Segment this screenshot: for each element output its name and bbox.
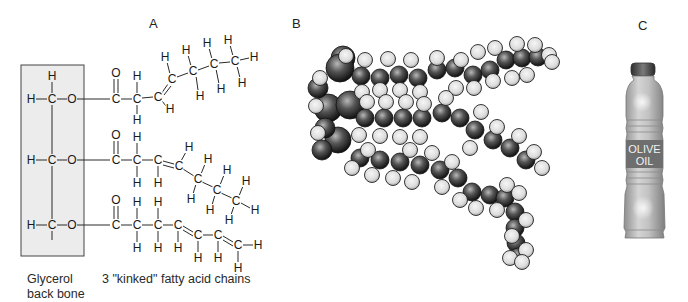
carbon-sphere bbox=[433, 104, 451, 122]
hydrogen-sphere bbox=[505, 229, 520, 244]
hydrogen-sphere bbox=[486, 74, 501, 89]
hydrogen-sphere bbox=[453, 193, 468, 208]
hydrogen-sphere bbox=[512, 186, 527, 201]
hydrogen-sphere bbox=[352, 128, 367, 143]
hydrogen-sphere bbox=[399, 95, 414, 110]
olive-oil-bottle: OLIVE OIL bbox=[614, 56, 674, 246]
hydrogen-sphere bbox=[403, 143, 418, 158]
hydrogen-sphere bbox=[510, 37, 525, 52]
diagram-stage: A HHCOHCOHCOOCHCHCHCHCHHCHHCHHHOCHCHCHCH… bbox=[0, 0, 688, 302]
hydrogen-sphere bbox=[435, 180, 450, 195]
space-filling-model bbox=[0, 0, 688, 302]
hydrogen-sphere bbox=[386, 171, 401, 186]
hydrogen-sphere bbox=[519, 213, 534, 228]
carbon-sphere bbox=[449, 169, 467, 187]
hydrogen-sphere bbox=[467, 81, 482, 96]
hydrogen-sphere bbox=[545, 55, 560, 70]
carbon-sphere bbox=[411, 156, 429, 174]
hydrogen-sphere bbox=[345, 161, 360, 176]
carbon-sphere bbox=[356, 109, 374, 127]
hydrogen-sphere bbox=[339, 49, 354, 64]
hydrogen-sphere bbox=[490, 203, 505, 218]
bottle-label-line2: OIL bbox=[636, 155, 654, 167]
hydrogen-sphere bbox=[313, 71, 328, 86]
hydrogen-sphere bbox=[309, 99, 324, 114]
hydrogen-sphere bbox=[445, 155, 460, 170]
hydrogen-sphere bbox=[417, 97, 432, 112]
hydrogen-sphere bbox=[405, 175, 420, 190]
hydrogen-sphere bbox=[505, 71, 520, 86]
hydrogen-sphere bbox=[381, 52, 396, 67]
hydrogen-sphere bbox=[454, 53, 469, 68]
panel-c-label: C bbox=[638, 18, 647, 33]
hydrogen-sphere bbox=[413, 130, 428, 145]
carbon-sphere bbox=[409, 69, 427, 87]
carbon-sphere bbox=[466, 121, 484, 139]
hydrogen-sphere bbox=[528, 38, 543, 53]
hydrogen-sphere bbox=[490, 120, 505, 135]
hydrogen-sphere bbox=[527, 145, 542, 160]
hydrogen-sphere bbox=[365, 168, 380, 183]
hydrogen-sphere bbox=[463, 141, 478, 156]
hydrogen-sphere bbox=[474, 105, 489, 120]
bottle-label: OLIVE OIL bbox=[626, 140, 663, 168]
carbon-sphere bbox=[394, 109, 412, 127]
hydrogen-sphere bbox=[520, 68, 535, 83]
bottle-label-line1: OLIVE bbox=[628, 143, 660, 155]
hydrogen-sphere bbox=[488, 41, 503, 56]
hydrogen-sphere bbox=[439, 91, 454, 106]
hydrogen-sphere bbox=[430, 51, 445, 66]
hydrogen-sphere bbox=[358, 53, 373, 68]
hydrogen-sphere bbox=[469, 201, 484, 216]
hydrogen-sphere bbox=[515, 255, 530, 270]
carbon-sphere bbox=[312, 140, 332, 160]
hydrogen-sphere bbox=[373, 129, 388, 144]
hydrogen-sphere bbox=[512, 129, 527, 144]
carbon-sphere bbox=[390, 66, 408, 84]
hydrogen-sphere bbox=[404, 53, 419, 68]
carbon-sphere bbox=[352, 67, 370, 85]
bottle-cap bbox=[631, 63, 655, 76]
hydrogen-sphere bbox=[535, 161, 550, 176]
hydrogen-sphere bbox=[471, 45, 486, 60]
hydrogen-sphere bbox=[361, 143, 376, 158]
carbon-sphere bbox=[451, 109, 469, 127]
hydrogen-sphere bbox=[311, 126, 326, 141]
hydrogen-sphere bbox=[360, 95, 375, 110]
hydrogen-sphere bbox=[393, 130, 408, 145]
hydrogen-sphere bbox=[379, 95, 394, 110]
hydrogen-sphere bbox=[425, 146, 440, 161]
carbon-sphere bbox=[375, 109, 393, 127]
carbon-sphere bbox=[413, 109, 431, 127]
